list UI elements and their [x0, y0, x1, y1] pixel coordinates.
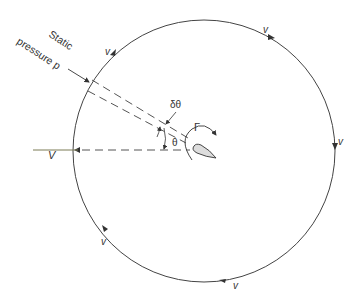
freestream-label: V: [48, 149, 57, 161]
dtheta-label: δθ: [170, 99, 182, 110]
theta-label: θ: [172, 137, 178, 148]
static-pressure-arrow: [68, 69, 89, 82]
circle-arrow-top-left-icon: [110, 49, 116, 56]
v-label-right: v: [338, 136, 344, 147]
circulation-diagram: V Static pressure p δθ θ Γ v v v v v: [0, 0, 361, 304]
circulation-label: Γ: [194, 121, 200, 133]
airfoil: [193, 144, 216, 158]
static-pressure-label-line1: Static: [47, 28, 76, 52]
v-label-top-left: v: [105, 46, 111, 57]
v-label-top-right: v: [263, 24, 269, 35]
circle-arrow-bottom-left-icon: [102, 225, 108, 232]
dtheta-pointer: [166, 112, 176, 124]
v-label-bottom: v: [233, 280, 239, 291]
theta-arc-arrow: [164, 128, 166, 149]
